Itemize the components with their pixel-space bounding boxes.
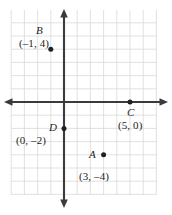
point-label-c-coord: (5, 0)	[118, 120, 142, 131]
plot-canvas	[0, 0, 172, 215]
point-marker-b	[48, 47, 53, 52]
point-label-b-coord: (–1, 4)	[19, 38, 49, 49]
y-axis	[60, 9, 68, 208]
y-axis-arrow-down	[60, 200, 68, 209]
coordinate-plane-figure: B (–1, 4) C (5, 0) D (0, –2) A (3, –4)	[0, 0, 172, 215]
x-axis-arrow-right	[160, 98, 169, 106]
point-label-a-name: A	[89, 149, 96, 160]
point-marker-c	[128, 100, 133, 105]
point-label-d-coord: (0, –2)	[16, 135, 46, 146]
point-label-d-name: D	[49, 122, 57, 133]
y-axis-arrow-up	[60, 9, 68, 18]
point-marker-a	[101, 152, 106, 157]
point-label-a-coord: (3, –4)	[79, 171, 109, 182]
point-label-c-name: C	[127, 107, 135, 118]
point-marker-d	[62, 126, 67, 131]
x-axis-arrow-left	[4, 98, 13, 106]
point-label-b-name: B	[36, 25, 43, 36]
